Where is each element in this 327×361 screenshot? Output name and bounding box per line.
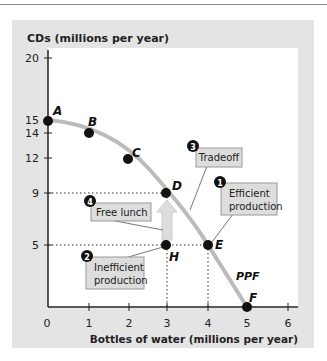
- svg-text:5: 5: [244, 317, 251, 330]
- svg-text:14: 14: [25, 127, 39, 140]
- svg-text:Efficient: Efficient: [229, 188, 270, 199]
- svg-text:A: A: [52, 104, 62, 118]
- svg-text:9: 9: [32, 187, 39, 200]
- svg-text:0: 0: [44, 317, 51, 330]
- annotation-inefficient: 2 Inefficient production: [81, 250, 148, 289]
- y-tick-labels: 20 15 14 12 9 5: [25, 52, 39, 252]
- svg-text:D: D: [172, 179, 182, 193]
- annotation-tradeoff: 3 Tradeoff: [187, 140, 242, 167]
- svg-text:H: H: [169, 250, 179, 264]
- svg-text:3: 3: [164, 317, 171, 330]
- svg-text:12: 12: [25, 152, 39, 165]
- svg-text:1: 1: [86, 317, 93, 330]
- svg-text:6: 6: [285, 317, 292, 330]
- free-lunch-arrow: [157, 200, 177, 240]
- svg-text:Free lunch: Free lunch: [96, 207, 148, 218]
- svg-text:1: 1: [217, 179, 223, 188]
- ppf-chart: CDs (millions per year) 20 15 14 12 9 5: [0, 0, 327, 361]
- svg-text:Inefficient: Inefficient: [94, 262, 144, 273]
- svg-text:15: 15: [25, 114, 39, 127]
- svg-text:3: 3: [190, 143, 196, 152]
- svg-text:4: 4: [87, 198, 93, 207]
- x-tick-labels: 0 1 2 3 4 5 6: [44, 317, 292, 330]
- svg-text:production: production: [229, 201, 283, 212]
- svg-text:F: F: [249, 291, 258, 305]
- svg-text:4: 4: [205, 317, 212, 330]
- point-e: [203, 240, 213, 250]
- x-axis-label: Bottles of water (millions per year): [90, 333, 298, 345]
- svg-text:2: 2: [126, 317, 133, 330]
- svg-text:E: E: [215, 238, 224, 252]
- svg-text:20: 20: [25, 52, 39, 65]
- annotation-free-lunch: 4 Free lunch: [84, 195, 151, 221]
- svg-text:production: production: [94, 275, 148, 286]
- point-b: [84, 128, 94, 138]
- y-axis-label: CDs (millions per year): [27, 32, 169, 45]
- point-h: [161, 240, 171, 250]
- svg-text:B: B: [88, 115, 97, 129]
- point-d: [161, 188, 171, 198]
- svg-text:C: C: [132, 146, 141, 160]
- annotation-efficient: 1 Efficient production: [214, 176, 283, 215]
- svg-text:Tradeoff: Tradeoff: [198, 152, 240, 163]
- svg-text:5: 5: [32, 239, 39, 252]
- svg-text:2: 2: [84, 253, 90, 262]
- point-a: [43, 116, 53, 126]
- ppf-label: PPF: [236, 270, 260, 283]
